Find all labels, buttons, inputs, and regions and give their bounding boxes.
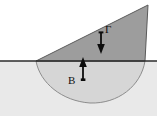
buoyancy-figure: Γ B: [0, 0, 157, 116]
weight-vector-tail-cap: [99, 31, 104, 33]
gamma-label: Γ: [105, 23, 111, 35]
b-label: B: [68, 74, 75, 86]
buoyancy-vector-tail-cap: [81, 78, 86, 81]
figure-canvas: Γ B: [0, 0, 157, 116]
